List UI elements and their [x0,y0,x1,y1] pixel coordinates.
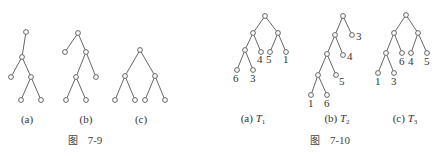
tree-edge [395,35,401,51]
tree-node [392,31,397,36]
tree-edge [395,17,404,31]
tree-node [113,98,118,103]
figure-7-10: 45163(a) T134516(b) T264513(c) T3图 7-10 [233,13,430,146]
tree-edge [126,52,139,74]
node-weight-label: 4 [347,50,353,62]
tree-edge [12,59,21,75]
node-weight-label: 1 [283,53,289,65]
tree-node [84,98,89,103]
subfigure-label: (a) [21,113,34,126]
node-weight-label: 3 [250,72,256,84]
tree-node [29,75,34,80]
tree-node [19,98,24,103]
tree-edge [254,18,263,31]
tree-node [163,98,168,103]
figure-caption: 图 7-10 [310,134,351,146]
tree-node [20,55,25,60]
tree-fig-7-9-2: (c) [113,48,168,126]
tree-edge [238,52,244,68]
tree-edge [319,77,326,93]
tree-node [341,14,346,19]
tree-node [404,13,409,18]
tree-node [334,73,339,78]
tree-edge [23,59,30,75]
tree-edge [156,78,164,98]
tree-node [9,75,14,80]
subfigure-label: (c) T3 [393,112,418,126]
tree-node [341,53,346,58]
tree-node [276,31,281,36]
tree-fig-7-10-0: 45163(a) T1 [233,14,289,126]
tree-node [64,98,69,103]
node-weight-label: 1 [375,75,381,87]
tree-node [416,31,421,36]
tree-node [76,31,81,36]
figure-7-9: (a)(b)(c)图 7-9 [9,30,168,146]
node-weight-label: 5 [424,55,430,67]
tree-edge [126,78,134,98]
tree-edge [77,54,85,75]
node-weight-label: 6 [324,97,330,109]
tree-edge [279,35,285,50]
tree-edge [22,34,25,54]
tree-edge [22,79,30,98]
tree-node [316,73,321,78]
tree-edge [412,35,417,50]
tree-node [133,98,138,103]
tree-edge [79,35,85,50]
tree-edge [246,35,252,48]
tree-fig-7-9-0: (a) [9,30,44,126]
tree-edge [387,35,393,51]
tree-edge [67,79,75,98]
tree-fig-7-9-1: (b) [63,31,99,126]
tree-edge [87,54,95,75]
node-weight-label: 5 [339,75,345,87]
tree-node [94,75,99,80]
tree-edge [271,35,277,50]
subfigure-label: (a) T1 [241,112,266,126]
tree-edge [32,79,40,98]
tree-edge [336,18,342,33]
tree-edge [407,17,416,31]
tree-node [384,51,389,56]
tree-node [325,52,330,57]
tree-edge [328,37,334,52]
tree-edge [319,56,326,73]
tree-edge [254,35,260,50]
tree-edge [387,55,393,71]
tree-node [24,30,29,35]
tree-node [350,33,355,38]
tree-node [84,50,89,55]
subfigure-label: (c) [135,113,148,126]
tree-node [143,98,148,103]
tree-edge [116,78,124,98]
tree-edge [246,52,252,68]
tree-node [263,14,268,19]
node-weight-label: 3 [391,75,397,87]
tree-edge [379,55,385,71]
tree-edge [141,52,154,74]
figure-caption: 图 7-9 [68,134,103,146]
tree-node [39,98,44,103]
tree-fig-7-10-1: 34516(b) T2 [308,14,362,126]
node-weight-label: 6 [399,55,405,67]
subfigure-label: (b) T2 [324,112,350,126]
tree-edge [146,78,154,98]
tree-node [74,75,79,80]
node-weight-label: 3 [356,30,362,42]
diagram-canvas: (a)(b)(c)图 7-9 45163(a) T134516(b) T2645… [0,0,440,156]
tree-edge [336,37,342,53]
node-weight-label: 4 [408,55,414,67]
tree-node [138,48,143,53]
tree-edge [312,77,317,92]
node-weight-label: 6 [233,72,239,84]
tree-node [243,48,248,53]
node-weight-label: 5 [266,53,272,65]
node-weight-label: 4 [257,53,263,65]
tree-edge [344,18,351,33]
tree-node [333,33,338,38]
tree-node [123,74,128,79]
tree-edge [77,79,85,98]
tree-fig-7-10-2: 64513(c) T3 [375,13,430,126]
subfigure-label: (b) [80,113,93,126]
